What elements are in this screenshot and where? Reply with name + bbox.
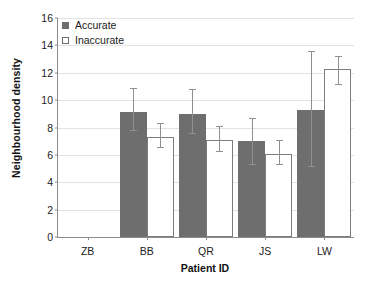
bar-inaccurate [147, 137, 174, 237]
error-bar-cap [335, 56, 342, 57]
x-axis-title: Patient ID [55, 262, 355, 274]
error-bar-cap [157, 123, 164, 124]
error-bar [192, 89, 193, 133]
error-bar-cap [216, 126, 223, 127]
error-bar-cap [130, 88, 137, 89]
error-bar [133, 88, 134, 130]
y-axis-tick-label: 0 [47, 231, 53, 243]
bar-inaccurate [265, 154, 292, 237]
x-axis-tick-mark [88, 237, 89, 240]
legend-label-accurate: Accurate [75, 18, 116, 33]
error-bar-cap [308, 166, 315, 167]
legend-item-accurate: Accurate [62, 18, 124, 33]
legend-item-inaccurate: Inaccurate [62, 33, 124, 48]
y-axis-tick-label: 12 [41, 67, 53, 79]
legend-label-inaccurate: Inaccurate [75, 33, 124, 48]
y-axis-tick-label: 4 [47, 176, 53, 188]
y-axis-tick-label: 2 [47, 204, 53, 216]
bar-inaccurate [324, 69, 351, 237]
y-axis-tick-label: 14 [41, 39, 53, 51]
error-bar-cap [335, 84, 342, 85]
error-bar [252, 118, 253, 165]
x-axis-tick-label: QR [198, 245, 214, 257]
y-axis-tick-label: 8 [47, 122, 53, 134]
error-bar [311, 51, 312, 166]
y-axis-tick-label: 10 [41, 94, 53, 106]
x-axis-tick-label: ZB [81, 245, 94, 257]
x-axis-tick-mark [206, 237, 207, 240]
error-bar [338, 56, 339, 83]
error-bar-cap [130, 130, 137, 131]
error-bar [279, 140, 280, 165]
error-bar-cap [276, 164, 283, 165]
x-axis-tick-mark [324, 237, 325, 240]
error-bar [219, 126, 220, 151]
x-axis-tick-label: LW [317, 245, 332, 257]
error-bar-cap [249, 164, 256, 165]
chart-legend: Accurate Inaccurate [62, 18, 124, 48]
x-axis-tick-label: BB [140, 245, 154, 257]
y-axis-tick-label: 16 [41, 12, 53, 24]
x-axis-tick-mark [265, 237, 266, 240]
y-axis-tick-label: 6 [47, 149, 53, 161]
chart-figure: Neighbourhood density Patient ID 0246810… [0, 0, 365, 285]
error-bar-cap [308, 51, 315, 52]
error-bar-cap [216, 151, 223, 152]
bar-group: QR [176, 18, 235, 237]
bar-group: ZB [58, 18, 117, 237]
error-bar-cap [157, 147, 164, 148]
legend-swatch-accurate-icon [62, 22, 69, 29]
error-bar-cap [189, 89, 196, 90]
bar-inaccurate [206, 140, 233, 237]
bar-group: BB [117, 18, 176, 237]
bar-group: LW [295, 18, 354, 237]
error-bar [160, 123, 161, 146]
error-bar-cap [189, 133, 196, 134]
error-bar-cap [249, 118, 256, 119]
plot-area: 0246810121416ZBBBQRJSLW [57, 18, 354, 238]
x-axis-tick-label: JS [259, 245, 271, 257]
y-axis-title: Neighbourhood density [8, 0, 24, 238]
legend-swatch-inaccurate-icon [62, 37, 69, 44]
error-bar-cap [276, 140, 283, 141]
bar-group: JS [236, 18, 295, 237]
x-axis-tick-mark [147, 237, 148, 240]
